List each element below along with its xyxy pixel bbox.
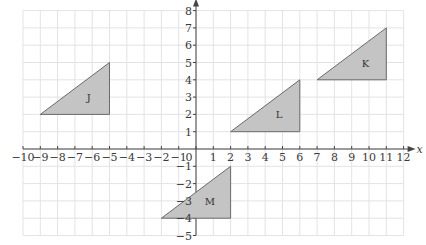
y-tick-label: 6 [185, 39, 192, 52]
x-tick-label: 3 [244, 151, 251, 164]
x-tick-label: −2 [153, 151, 169, 164]
x-tick-label: 8 [331, 151, 338, 164]
x-tick-label: 9 [348, 151, 355, 164]
x-tick-label: −7 [67, 151, 83, 164]
triangle-label: M [205, 196, 215, 207]
y-tick-label: −3 [176, 195, 192, 208]
y-tick-label: −5 [176, 230, 192, 243]
triangle-label: J [86, 92, 91, 103]
y-tick-label: −4 [176, 212, 192, 225]
x-tick-label: −6 [84, 151, 100, 164]
coordinate-plane: JKLM −10−9−8−7−6−5−4−3−2−112345678910111… [0, 0, 426, 245]
x-tick-label: 5 [279, 151, 286, 164]
y-tick-label: 1 [185, 126, 192, 139]
x-tick-label: −3 [136, 151, 152, 164]
y-tick-label: 7 [185, 22, 192, 35]
triangle-label: K [362, 58, 370, 69]
x-tick-label: −8 [49, 151, 65, 164]
triangle-label: L [276, 109, 283, 120]
x-tick-label: 2 [227, 151, 234, 164]
y-tick-label: −2 [176, 178, 192, 191]
x-tick-label: 11 [379, 151, 393, 164]
x-tick-label: 6 [296, 151, 303, 164]
y-tick-label: 4 [185, 74, 192, 87]
x-axis-label: x [417, 143, 424, 156]
y-axis-arrow-icon [193, 0, 199, 7]
y-tick-label: 8 [185, 5, 192, 18]
x-tick-label: −4 [119, 151, 135, 164]
x-tick-label: 7 [314, 151, 321, 164]
x-tick-label: −10 [11, 151, 34, 164]
y-tick-label: 2 [185, 108, 192, 121]
x-tick-label: −5 [101, 151, 117, 164]
y-tick-label: 3 [185, 91, 192, 104]
x-tick-label: 1 [210, 151, 217, 164]
x-tick-label: 4 [262, 151, 269, 164]
x-tick-label: 12 [397, 151, 411, 164]
y-tick-label: 5 [185, 57, 192, 70]
x-tick-label: −9 [32, 151, 48, 164]
x-tick-label: 10 [362, 151, 376, 164]
y-tick-label: −1 [176, 160, 192, 173]
